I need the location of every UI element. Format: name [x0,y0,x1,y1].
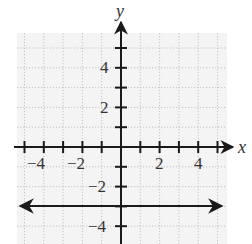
y-tick-label-neg4: −4 [88,217,107,236]
x-tick-label-2: 2 [155,154,164,173]
x-tick-label-neg4: −4 [27,154,46,173]
coordinate-plane: x y −4 −2 2 4 4 2 −2 −4 [0,0,252,244]
y-tick-label-4: 4 [100,58,109,77]
y-tick-label-neg2: −2 [88,177,106,196]
x-axis-label: x [237,137,246,157]
x-tick-label-neg2: −2 [67,154,85,173]
x-tick-label-4: 4 [194,154,203,173]
y-tick-label-2: 2 [100,98,109,117]
y-axis-label: y [114,1,124,21]
